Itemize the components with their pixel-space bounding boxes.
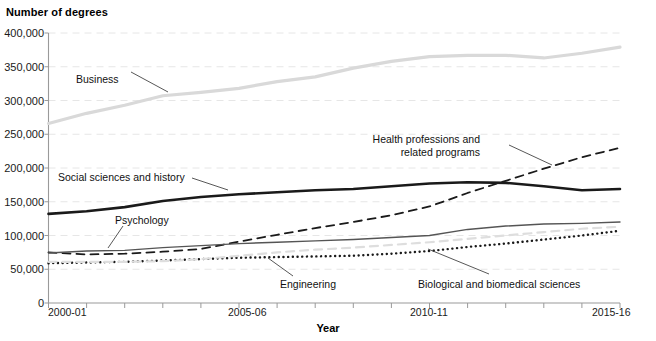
annotation-social-sciences-and-history: Social sciences and history bbox=[58, 171, 185, 183]
annotation-psychology: Psychology bbox=[115, 214, 169, 226]
series-social-sciences-and-history bbox=[49, 182, 621, 214]
annotation-health-professions-line2: related programs bbox=[335, 146, 480, 158]
annotation-biological-sciences: Biological and biomedical sciences bbox=[418, 278, 580, 290]
series-business bbox=[49, 47, 621, 123]
line-chart: Number of degrees 0 50,000 100,000 150,0… bbox=[0, 0, 656, 341]
series-health-professions-and-related-programs bbox=[49, 148, 621, 255]
annotation-health-professions-line1: Health professions and bbox=[335, 133, 480, 145]
annotation-business: Business bbox=[76, 73, 119, 85]
annotation-engineering: Engineering bbox=[280, 278, 336, 290]
